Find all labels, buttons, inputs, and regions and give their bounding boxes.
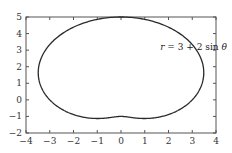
y-tick-label: 2: [16, 62, 22, 72]
x-tick-label: −2: [67, 136, 80, 146]
axis-ticks: [26, 17, 216, 133]
y-tick-label: −2: [9, 128, 22, 138]
y-tick-labels: −2−1012345: [9, 12, 23, 138]
x-tick-label: −3: [43, 136, 57, 146]
x-tick-labels: −4−3−2−101234: [19, 136, 219, 146]
y-tick-label: 0: [16, 95, 22, 105]
axes-frame: [26, 17, 216, 133]
annot-theta: θ: [222, 42, 228, 52]
x-tick-label: 1: [142, 136, 148, 146]
x-tick-label: 3: [189, 136, 195, 146]
polar-curve-chart: −4−3−2−101234 −2−1012345 r = 3 + 2 sin θ: [0, 0, 232, 153]
plot-frame: [26, 17, 216, 133]
y-tick-label: 3: [16, 45, 22, 55]
annot-mid: = 3 + 2 sin: [165, 42, 222, 52]
y-tick-label: 4: [16, 29, 22, 39]
y-tick-label: −1: [9, 111, 22, 121]
x-tick-label: 0: [118, 136, 124, 146]
y-tick-label: 5: [16, 12, 22, 22]
x-tick-label: 4: [213, 136, 219, 146]
curve-equation-label: r = 3 + 2 sin θ: [160, 42, 227, 52]
limacon-curve: [38, 17, 204, 119]
x-tick-label: −1: [91, 136, 104, 146]
y-tick-label: 1: [16, 78, 22, 88]
x-tick-label: 2: [166, 136, 172, 146]
